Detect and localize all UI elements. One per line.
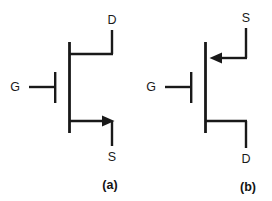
- source-label-a: S: [108, 150, 116, 164]
- caption-a: (a): [102, 178, 117, 192]
- gate-label-a: G: [10, 80, 20, 94]
- jfet-diagram-a: G D S (a) G S D (b): [0, 0, 272, 201]
- caption-b: (b): [240, 180, 256, 194]
- figure-canvas: G D S (a) G S D (b): [0, 0, 272, 201]
- drain-label-a: D: [107, 13, 116, 27]
- drain-label-b: D: [241, 152, 250, 166]
- source-arrowhead-b: [210, 52, 223, 63]
- source-label-b: S: [242, 11, 250, 25]
- gate-label-b: G: [146, 80, 156, 94]
